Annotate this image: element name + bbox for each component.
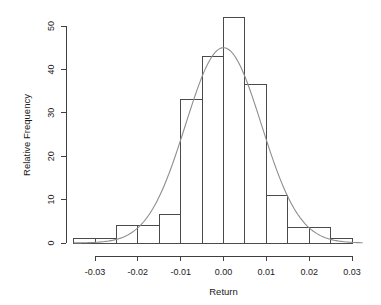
histogram-bar [181, 100, 202, 243]
histogram-chart: 0 10 20 30 40 50 Relative Frequency [0, 0, 381, 305]
x-tick-label-neg003: -0.03 [85, 267, 106, 277]
histogram-bar [138, 226, 159, 243]
histogram-bar [202, 56, 223, 243]
x-tick-label-neg002: -0.02 [128, 267, 149, 277]
x-axis-title: Return [209, 286, 238, 297]
histogram-bar [266, 195, 287, 243]
y-axis-title: Relative Frequency [21, 94, 32, 176]
y-tick-label-20: 20 [46, 151, 56, 161]
histogram-bar [288, 228, 309, 243]
x-tick-label-001: 0.01 [258, 267, 276, 277]
y-tick-label-50: 50 [46, 21, 56, 31]
x-tick-label-000: 0.00 [215, 267, 233, 277]
y-tick-label-40: 40 [46, 64, 56, 74]
x-tick-label-002: 0.02 [300, 267, 318, 277]
histogram-bar [224, 17, 245, 243]
histogram-bar [116, 226, 137, 243]
chart-canvas: 0 10 20 30 40 50 Relative Frequency [0, 0, 381, 305]
histogram-bar [159, 215, 180, 243]
y-tick-label-30: 30 [46, 108, 56, 118]
x-tick-label-003: 0.03 [343, 267, 361, 277]
x-tick-label-neg001: -0.01 [170, 267, 191, 277]
y-tick-label-10: 10 [46, 195, 56, 205]
y-tick-label-0: 0 [46, 240, 56, 245]
